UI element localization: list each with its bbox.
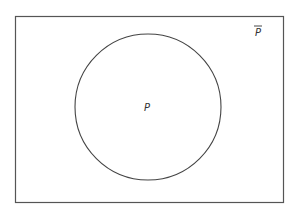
complement-p-label: P — [255, 27, 262, 38]
venn-diagram: P P — [0, 0, 299, 214]
set-p-label: P — [144, 102, 151, 113]
complement-label: P — [254, 26, 262, 38]
